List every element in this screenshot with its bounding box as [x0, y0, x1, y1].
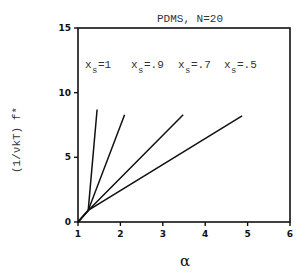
series-line [78, 115, 183, 222]
y-tick-label: 15 [58, 23, 71, 33]
chart-title: PDMS, N=20 [157, 13, 223, 25]
x-tick-label: 1 [75, 229, 81, 239]
chart: PDMS, N=20 123456051015 xs=1xs=.9xs=.7xs… [0, 0, 307, 277]
x-tick-label: 6 [287, 229, 293, 239]
x-tick-label: 2 [117, 229, 123, 239]
series-line [78, 115, 125, 222]
series-label: x [131, 59, 138, 71]
series-label-value: =.5 [237, 59, 257, 71]
series-label-subscript: s [92, 66, 97, 76]
y-tick-label: 10 [58, 88, 71, 98]
series-label: x [224, 59, 231, 71]
series-label-subscript: s [231, 66, 236, 76]
x-tick-label: 3 [160, 229, 166, 239]
x-tick-label: 5 [244, 229, 250, 239]
x-tick-label: 4 [202, 229, 208, 239]
plot-frame [78, 28, 290, 222]
series-label-subscript: s [138, 66, 143, 76]
x-axis-label: α [180, 252, 190, 270]
y-tick-label: 0 [65, 217, 71, 227]
y-axis-label: (1/νkT) f* [11, 107, 23, 173]
series-label: x [85, 59, 92, 71]
series-label-value: =1 [98, 59, 112, 71]
y-tick-label: 5 [65, 152, 71, 162]
series-label-value: =.7 [191, 59, 211, 71]
series-line [78, 116, 242, 222]
series-label-value: =.9 [144, 59, 164, 71]
series-label: x [178, 59, 185, 71]
series-label-subscript: s [185, 66, 190, 76]
